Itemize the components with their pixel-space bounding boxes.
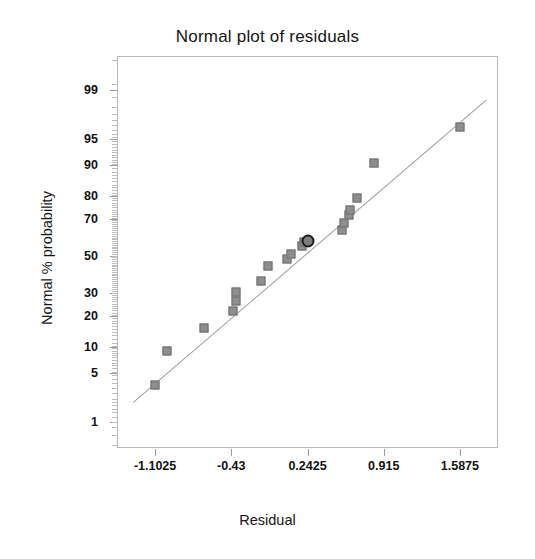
y-axis-minor-tick bbox=[112, 150, 117, 151]
y-axis-minor-tick bbox=[112, 304, 117, 305]
y-axis-minor-tick bbox=[112, 144, 117, 145]
y-axis-minor-tick bbox=[112, 409, 117, 410]
y-axis-minor-tick bbox=[112, 266, 117, 267]
data-point[interactable] bbox=[345, 206, 354, 215]
y-axis-minor-tick bbox=[112, 263, 117, 264]
data-point[interactable] bbox=[199, 324, 208, 333]
y-axis-minor-tick bbox=[112, 346, 117, 347]
y-axis-minor-tick bbox=[112, 274, 117, 275]
y-axis-minor-tick bbox=[112, 399, 117, 400]
y-axis-minor-tick bbox=[112, 275, 117, 276]
data-point[interactable] bbox=[287, 250, 296, 259]
y-axis-minor-tick bbox=[112, 256, 117, 257]
y-axis-minor-tick bbox=[112, 245, 117, 246]
y-axis-minor-tick bbox=[112, 181, 117, 182]
y-axis-minor-tick bbox=[112, 155, 117, 156]
y-axis-minor-tick bbox=[112, 301, 117, 302]
x-axis-tick bbox=[384, 449, 385, 456]
data-point[interactable] bbox=[256, 277, 265, 286]
y-axis-minor-tick bbox=[112, 353, 117, 354]
y-axis-minor-tick bbox=[112, 323, 117, 324]
y-axis-minor-tick bbox=[112, 435, 117, 436]
y-axis-minor-tick bbox=[112, 297, 117, 298]
y-axis-minor-tick bbox=[112, 168, 117, 169]
y-axis-minor-tick bbox=[112, 185, 117, 186]
y-axis-minor-tick bbox=[112, 195, 117, 196]
y-axis-minor-tick bbox=[112, 315, 117, 316]
y-axis-minor-tick bbox=[112, 293, 117, 294]
y-axis-minor-tick bbox=[112, 357, 117, 358]
data-point[interactable] bbox=[228, 306, 237, 315]
y-axis-minor-tick bbox=[112, 287, 117, 288]
data-point[interactable] bbox=[370, 158, 379, 167]
y-axis-minor-tick bbox=[112, 339, 117, 340]
y-axis-minor-tick bbox=[112, 60, 117, 61]
y-axis-minor-tick bbox=[112, 343, 117, 344]
data-point[interactable] bbox=[162, 347, 171, 356]
y-axis-minor-tick bbox=[112, 157, 117, 158]
y-axis-minor-tick bbox=[112, 226, 117, 227]
y-axis-minor-tick bbox=[112, 207, 117, 208]
y-axis-minor-tick bbox=[112, 310, 117, 311]
chart-canvas: Normal plot of residuals Normal % probab… bbox=[0, 0, 535, 559]
data-point[interactable] bbox=[151, 380, 160, 389]
y-axis-minor-tick bbox=[112, 250, 117, 251]
y-axis-minor-tick bbox=[112, 379, 117, 380]
y-axis-minor-tick bbox=[112, 243, 117, 244]
y-axis-minor-tick bbox=[112, 289, 117, 290]
data-point[interactable] bbox=[338, 226, 347, 235]
y-axis-minor-tick bbox=[112, 216, 117, 217]
y-axis-minor-tick bbox=[112, 351, 117, 352]
y-axis-minor-tick bbox=[112, 175, 117, 176]
y-axis-minor-tick bbox=[112, 230, 117, 231]
y-axis-minor-tick bbox=[112, 321, 117, 322]
y-axis-minor-tick bbox=[112, 365, 117, 366]
y-axis-minor-tick bbox=[112, 412, 117, 413]
y-axis-minor-tick bbox=[112, 318, 117, 319]
data-point[interactable] bbox=[455, 122, 464, 131]
data-point[interactable] bbox=[232, 288, 241, 297]
data-point[interactable] bbox=[231, 296, 240, 305]
y-axis-tick-label: 1 bbox=[91, 415, 98, 429]
y-axis-minor-tick bbox=[112, 114, 117, 115]
y-axis-minor-tick bbox=[112, 200, 117, 201]
y-axis-minor-tick bbox=[112, 172, 117, 173]
y-axis-minor-tick bbox=[112, 308, 117, 309]
y-axis-minor-tick bbox=[112, 232, 117, 233]
y-axis-minor-tick bbox=[112, 236, 117, 237]
y-axis-minor-tick bbox=[112, 405, 117, 406]
y-axis-minor-tick bbox=[112, 234, 117, 235]
y-axis-minor-tick bbox=[112, 252, 117, 253]
y-axis-tick-label: 70 bbox=[84, 212, 98, 226]
y-axis-minor-tick bbox=[112, 279, 117, 280]
y-axis-minor-tick bbox=[112, 248, 117, 249]
y-axis-minor-tick bbox=[112, 84, 117, 85]
y-axis-minor-tick bbox=[112, 375, 117, 376]
data-point[interactable] bbox=[263, 261, 272, 270]
y-axis-minor-tick bbox=[112, 218, 117, 219]
y-axis-minor-tick bbox=[112, 214, 117, 215]
y-axis-minor-tick bbox=[112, 222, 117, 223]
y-axis-tick-label: 50 bbox=[84, 249, 98, 263]
y-axis-tick-label: 99 bbox=[84, 83, 98, 97]
y-axis-minor-tick bbox=[112, 427, 117, 428]
y-axis-minor-tick bbox=[112, 210, 117, 211]
x-axis-tick-label: -1.1025 bbox=[134, 459, 176, 473]
x-axis-label: Residual bbox=[0, 512, 535, 528]
y-axis-minor-tick bbox=[112, 162, 117, 163]
data-point[interactable] bbox=[353, 194, 362, 203]
y-axis-minor-tick bbox=[112, 187, 117, 188]
y-axis-minor-tick bbox=[112, 134, 117, 135]
y-axis-minor-tick bbox=[112, 268, 117, 269]
y-axis-minor-tick bbox=[112, 335, 117, 336]
y-axis-minor-tick bbox=[112, 402, 117, 403]
x-axis-tick-label: -0.43 bbox=[217, 459, 246, 473]
y-axis-minor-tick bbox=[112, 120, 117, 121]
y-axis-minor-tick bbox=[112, 291, 117, 292]
y-axis-minor-tick bbox=[112, 160, 117, 161]
chart-title: Normal plot of residuals bbox=[0, 27, 535, 47]
data-point-highlighted[interactable] bbox=[301, 234, 314, 247]
y-axis-tick-label: 80 bbox=[84, 189, 98, 203]
x-axis-tick bbox=[460, 449, 461, 456]
y-axis-minor-tick bbox=[112, 130, 117, 131]
